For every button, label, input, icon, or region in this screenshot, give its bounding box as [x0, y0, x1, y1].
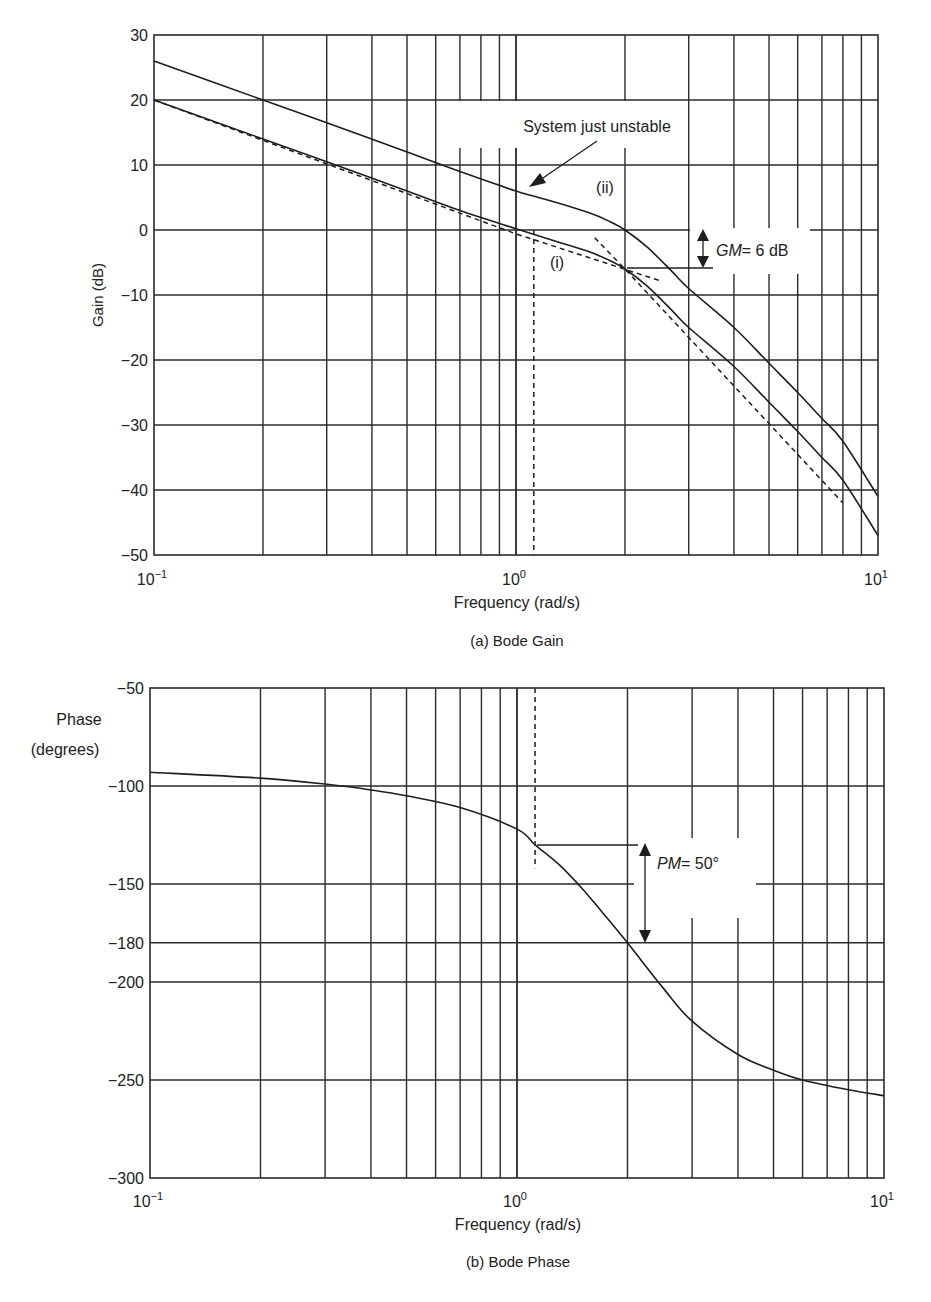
x-tick-label: 101 [870, 1190, 894, 1210]
phase-x-tick-labels: 10−1100101 [133, 1190, 894, 1210]
curve-ii-label: (ii) [596, 179, 614, 196]
y-tick-label: −180 [108, 935, 144, 952]
x-tick-label: 100 [503, 1190, 527, 1210]
y-tick-label: 10 [130, 157, 148, 174]
y-tick-label: −50 [121, 547, 148, 564]
phase-y-axis-label-line1: Phase [56, 711, 101, 728]
phase-y-axis-label-line2: (degrees) [31, 741, 99, 758]
bode-gain-plot: 3020100−10−20−30−40−50 10−1100101 Gain (… [89, 27, 888, 649]
gm-label-italic: GM [716, 242, 742, 259]
x-tick-label: 10−1 [137, 568, 167, 588]
y-tick-label: −250 [108, 1072, 144, 1089]
y-tick-label: −300 [108, 1170, 144, 1187]
annotation-arrowhead-icon [529, 173, 546, 187]
phase-grid [150, 688, 884, 1178]
y-tick-label: −30 [121, 417, 148, 434]
phase-label-masks [634, 838, 756, 918]
y-tick-label: −200 [108, 974, 144, 991]
phase-x-axis-label: Frequency (rad/s) [455, 1216, 581, 1233]
gm-label: GM= 6 dB [716, 242, 788, 259]
phase-y-tick-labels: −50−100−150−180−200−250−300 [108, 680, 144, 1187]
gain-x-axis-label: Frequency (rad/s) [454, 594, 580, 611]
y-tick-label: 20 [130, 92, 148, 109]
phase-caption: (b) Bode Phase [466, 1253, 570, 1270]
y-tick-label: −10 [121, 287, 148, 304]
gain-y-axis-label: Gain (dB) [89, 263, 106, 327]
label-background [634, 838, 756, 918]
x-tick-label: 10−1 [133, 1190, 163, 1210]
y-tick-label: −50 [117, 680, 144, 697]
pm-label-italic: PM [657, 855, 682, 872]
y-tick-label: −150 [108, 876, 144, 893]
y-tick-label: −40 [121, 482, 148, 499]
gain-caption: (a) Bode Gain [470, 632, 563, 649]
gain-y-tick-labels: 3020100−10−20−30−40−50 [121, 27, 148, 564]
x-tick-label: 101 [864, 568, 888, 588]
pm-label-value: = 50° [681, 855, 719, 872]
x-tick-label: 100 [502, 568, 526, 588]
gm-label-value: = 6 dB [742, 242, 789, 259]
y-tick-label: −100 [108, 778, 144, 795]
pm-arrow-down-icon [639, 930, 651, 943]
series-line [595, 238, 843, 503]
bode-figure: 3020100−10−20−30−40−50 10−1100101 Gain (… [0, 0, 931, 1302]
y-tick-label: 30 [130, 27, 148, 44]
system-just-unstable-label: System just unstable [523, 118, 671, 135]
curve-i-label: (i) [550, 254, 564, 271]
y-tick-label: −20 [121, 352, 148, 369]
y-tick-label: 0 [139, 222, 148, 239]
bode-phase-plot: −50−100−150−180−200−250−300 10−1100101 P… [31, 680, 894, 1270]
pm-label: PM= 50° [657, 855, 719, 872]
gain-x-tick-labels: 10−1100101 [137, 568, 888, 588]
